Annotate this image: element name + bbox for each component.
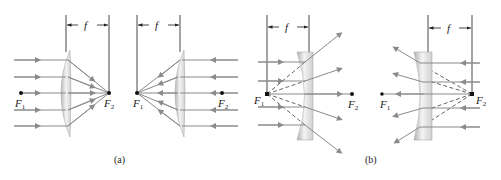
panel-a-right: f F1 F2 [132,15,238,137]
f1-label: F1 [132,97,144,111]
f1-label: F1 [14,97,26,111]
f2-label: F2 [103,97,115,111]
f2-label: F2 [347,98,359,112]
focal-length-label: f [155,19,160,31]
focal-point-f2 [470,92,474,96]
f1-label: F1 [253,94,265,108]
caption-a: (a) [114,154,125,166]
focal-point-f1 [265,92,269,96]
panel-b-left: f F1 F2 [253,15,359,152]
focal-point-f2 [350,92,354,96]
lens-diagram: f F1 F2 f [0,0,501,180]
refracted-rays [68,60,109,126]
focal-length-label: f [84,19,89,31]
focal-point-f1 [135,91,139,95]
f2-label: F2 [217,97,229,111]
incident-rays [180,60,238,126]
refracted-rays [384,48,424,142]
focal-length-label: f [285,21,290,33]
refracted-rays [137,60,180,126]
f1-label: F1 [379,98,391,112]
focal-point-f1 [380,92,384,96]
focal-length-dimension: f [137,15,180,93]
caption-b: (b) [365,154,377,166]
diverging-lens [297,52,313,140]
focal-length-label: f [447,22,452,34]
panel-a-left: f F1 F2 [14,15,115,137]
focal-point-f1 [19,91,23,95]
focal-point-f2 [107,91,111,95]
panel-b-right: f F1 F2 [379,15,487,142]
virtual-rays [432,71,472,120]
focal-point-f2 [220,91,224,95]
f2-label: F2 [475,94,487,108]
focal-length-dimension: f [66,15,109,93]
